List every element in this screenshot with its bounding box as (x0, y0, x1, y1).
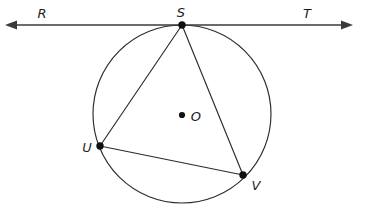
arrow-head-right-icon (341, 21, 353, 30)
point-dot-o-center (179, 112, 185, 118)
chord-s-v (182, 25, 243, 175)
point-label-o: O (191, 110, 201, 123)
point-label-u: U (82, 141, 92, 154)
arrow-head-left-icon (5, 21, 17, 30)
chord-u-v (100, 146, 243, 175)
geometry-figure: R S T O U V (0, 0, 368, 218)
point-label-r: R (37, 7, 46, 20)
chord-s-u (100, 25, 182, 146)
point-label-s: S (177, 6, 185, 19)
point-dot-s (178, 21, 185, 28)
point-dot-u (96, 142, 103, 149)
point-label-t: T (303, 7, 311, 20)
point-label-v: V (251, 179, 260, 192)
point-dot-v (239, 171, 246, 178)
geometry-canvas (0, 0, 368, 218)
